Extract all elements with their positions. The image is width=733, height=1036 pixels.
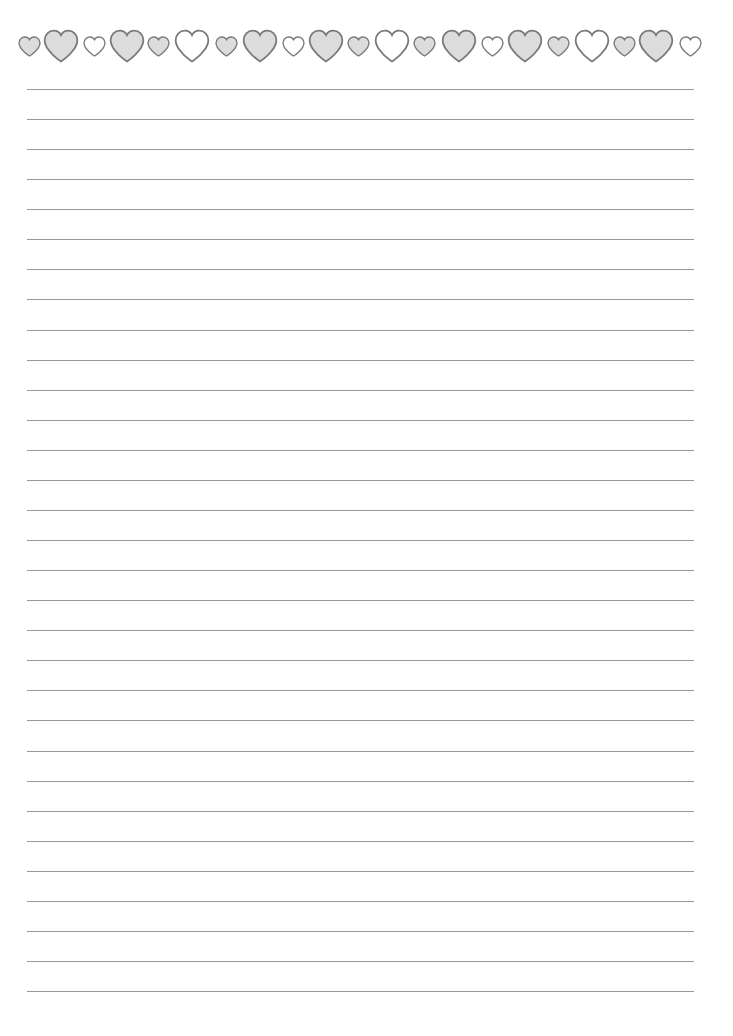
ruled-line (27, 600, 694, 601)
ruled-line (27, 510, 694, 511)
ruled-line (27, 269, 694, 270)
ruled-line (27, 299, 694, 300)
lined-paper-page (0, 0, 733, 1036)
ruled-line (27, 540, 694, 541)
ruled-line (27, 390, 694, 391)
ruled-line (27, 420, 694, 421)
ruled-line (27, 89, 694, 90)
ruled-line (27, 179, 694, 180)
ruled-line (27, 149, 694, 150)
ruled-line (27, 841, 694, 842)
ruled-line (27, 961, 694, 962)
ruled-line (27, 720, 694, 721)
ruled-line (27, 239, 694, 240)
ruled-line (27, 751, 694, 752)
ruled-line (27, 781, 694, 782)
ruled-line (27, 119, 694, 120)
ruled-line (27, 871, 694, 872)
ruled-line (27, 901, 694, 902)
ruled-line (27, 991, 694, 992)
ruled-line (27, 931, 694, 932)
ruled-line (27, 660, 694, 661)
ruled-lines (0, 0, 733, 1036)
ruled-line (27, 811, 694, 812)
ruled-line (27, 690, 694, 691)
ruled-line (27, 570, 694, 571)
ruled-line (27, 330, 694, 331)
ruled-line (27, 450, 694, 451)
ruled-line (27, 630, 694, 631)
ruled-line (27, 209, 694, 210)
ruled-line (27, 480, 694, 481)
ruled-line (27, 360, 694, 361)
